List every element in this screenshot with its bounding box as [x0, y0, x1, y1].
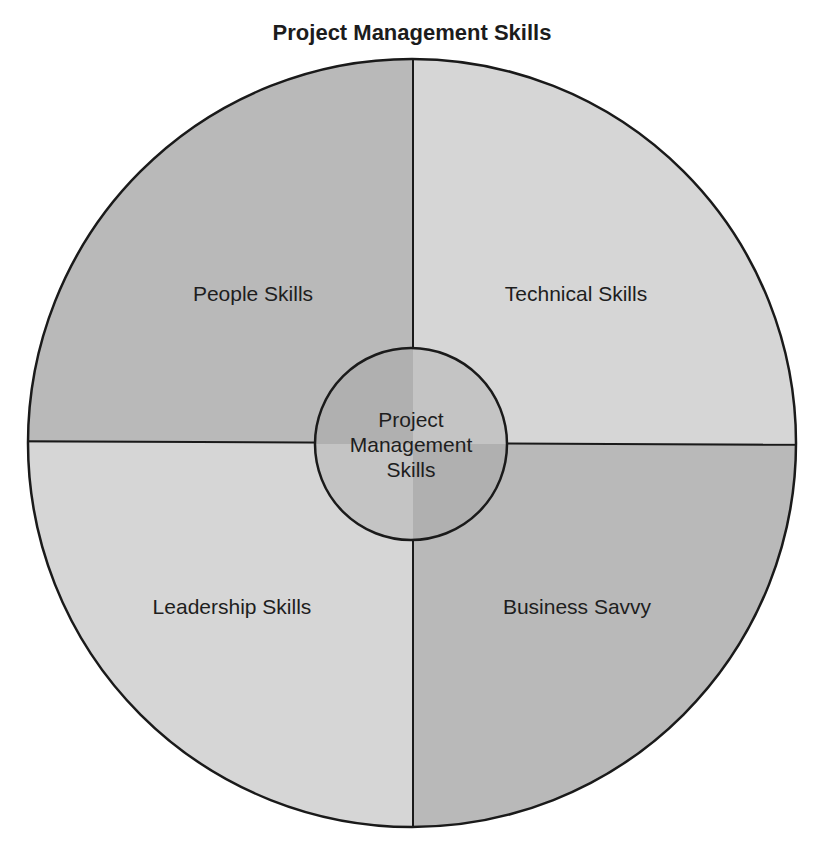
center-label-line-2: Management [350, 432, 473, 457]
center-label-line-3: Skills [350, 457, 473, 482]
label-people-skills: People Skills [193, 282, 313, 306]
label-business-savvy: Business Savvy [503, 595, 651, 619]
center-label-line-1: Project [350, 407, 473, 432]
label-leadership-skills: Leadership Skills [153, 595, 312, 619]
label-technical-skills: Technical Skills [505, 282, 647, 306]
center-label: Project Management Skills [350, 407, 473, 482]
